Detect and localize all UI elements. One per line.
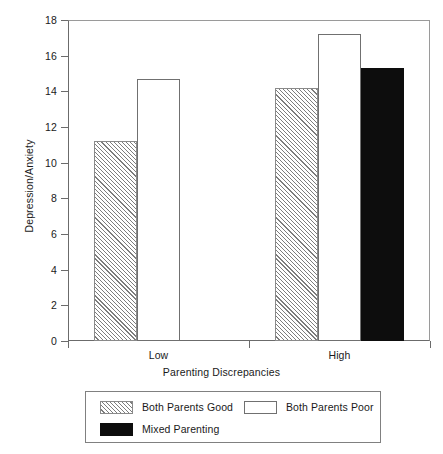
x-axis-tick-label: High <box>300 350 380 361</box>
y-axis-tick-label: 16 <box>45 51 57 62</box>
legend-swatch-hatched-icon <box>100 401 133 414</box>
legend-entry-mixed-parenting: Mixed Parenting <box>100 423 219 436</box>
legend-swatch-solid-icon <box>100 423 133 436</box>
bar-chart-figure: 024681012141618 Depression/Anxiety LowHi… <box>0 0 443 454</box>
y-axis-tick-label: 14 <box>45 86 57 97</box>
legend-label: Mixed Parenting <box>142 424 219 435</box>
y-axis-tick <box>61 163 68 164</box>
bar <box>94 141 137 341</box>
y-axis-tick <box>61 234 68 235</box>
x-axis-tick <box>249 341 250 348</box>
y-axis-tick <box>61 20 68 21</box>
y-axis-tick-label: 0 <box>51 336 57 347</box>
legend-entry-both-parents-poor: Both Parents Poor <box>244 401 374 414</box>
y-axis-tick <box>61 305 68 306</box>
y-axis-tick-label: 2 <box>51 300 57 311</box>
legend-row: Mixed Parenting <box>86 418 380 440</box>
y-axis-tick-label: 12 <box>45 122 57 133</box>
legend-entry-both-parents-good: Both Parents Good <box>100 401 233 414</box>
y-axis-tick <box>61 127 68 128</box>
legend: Both Parents Good Both Parents Poor Mixe… <box>85 391 381 443</box>
y-axis-tick-label: 4 <box>51 265 57 276</box>
y-axis-tick <box>61 270 68 271</box>
bar <box>318 34 361 341</box>
legend-row: Both Parents Good Both Parents Poor <box>86 396 380 418</box>
y-axis-tick-label: 10 <box>45 158 57 169</box>
x-axis-title: Parenting Discrepancies <box>0 366 443 378</box>
legend-label: Both Parents Poor <box>286 402 374 413</box>
y-axis-tick <box>61 56 68 57</box>
y-axis-tick <box>61 91 68 92</box>
legend-swatch-open-icon <box>244 401 277 414</box>
x-axis-tick <box>68 341 69 348</box>
y-axis-tick <box>61 198 68 199</box>
y-axis-tick-label: 8 <box>51 193 57 204</box>
bar <box>361 68 404 341</box>
bar <box>137 79 180 341</box>
bar <box>275 88 318 341</box>
y-axis-tick-label: 18 <box>45 15 57 26</box>
legend-label: Both Parents Good <box>142 402 233 413</box>
y-axis-tick <box>61 341 68 342</box>
x-axis-tick-label: Low <box>119 350 199 361</box>
y-axis-title: Depression/Anxiety <box>23 96 35 276</box>
y-axis-tick-label: 6 <box>51 229 57 240</box>
x-axis-tick <box>430 341 431 348</box>
